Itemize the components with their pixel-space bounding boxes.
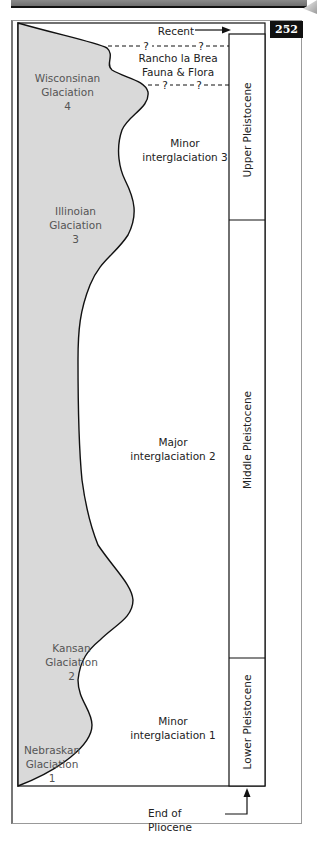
interglaciation-label-1: Minor interglaciation 1 <box>118 714 228 742</box>
glaciation-label-nebraskan: Nebraskan Glaciation 1 <box>14 743 90 785</box>
pliocene-arrow-head <box>244 788 251 797</box>
recent-arrow-head <box>222 27 231 34</box>
recent-label: Recent <box>156 24 196 38</box>
epoch-label-middle-pleistocene: Middle Pleistocene <box>241 391 253 489</box>
uncertain-marker: ? <box>194 78 204 92</box>
glaciation-label-illinoian: Illinoian Glaciation 3 <box>28 204 123 246</box>
uncertain-marker: ? <box>160 78 170 92</box>
glaciation-label-kansan: Kansan Glaciation 2 <box>24 641 119 683</box>
interglaciation-label-3: Minor interglaciation 3 <box>130 136 240 164</box>
glaciation-label-wisconsinan: Wisconsinan Glaciation 4 <box>20 71 115 113</box>
pliocene-arrow-line <box>225 796 247 814</box>
end-of-pliocene-label: End of Pliocene <box>148 806 228 834</box>
rancho-la-brea-label: Rancho la Brea Fauna & Flora <box>128 51 228 79</box>
epoch-label-lower-pleistocene: Lower Pleistocene <box>241 675 253 770</box>
epoch-label-upper-pleistocene: Upper Pleistocene <box>241 82 253 177</box>
interglaciation-label-2: Major interglaciation 2 <box>118 435 228 463</box>
